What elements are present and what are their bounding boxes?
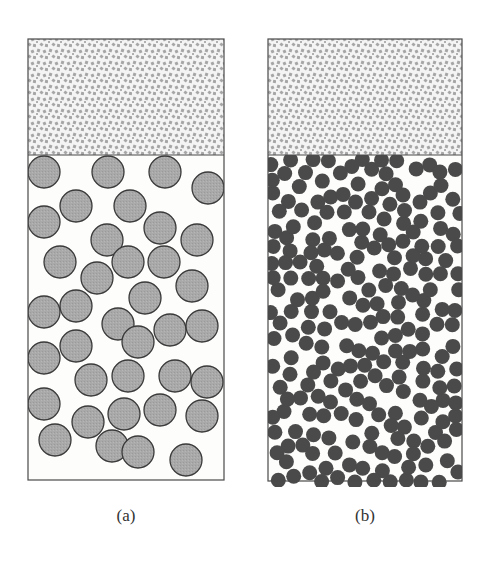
small-particle xyxy=(290,292,305,307)
small-particle xyxy=(445,339,460,354)
small-particle xyxy=(267,425,282,440)
small-particle xyxy=(405,288,420,303)
small-particle xyxy=(305,232,320,247)
small-particle xyxy=(286,219,301,234)
small-particle xyxy=(283,367,298,382)
small-particle xyxy=(267,331,282,346)
small-particle xyxy=(271,473,286,488)
small-particle xyxy=(307,215,322,230)
small-particle xyxy=(364,191,379,206)
small-particle xyxy=(402,344,417,359)
small-particle xyxy=(302,465,317,480)
large-particle xyxy=(28,206,60,238)
small-particle xyxy=(396,384,411,399)
large-particle xyxy=(60,330,92,362)
small-particle xyxy=(305,446,320,461)
small-particle xyxy=(306,365,321,380)
large-particle xyxy=(122,326,154,358)
large-particle xyxy=(186,400,218,432)
large-particle xyxy=(186,310,218,342)
small-particle xyxy=(430,317,445,332)
small-particle xyxy=(362,205,377,220)
small-particle xyxy=(452,206,467,221)
small-particle xyxy=(364,426,379,441)
small-particle xyxy=(390,310,405,325)
small-particle xyxy=(288,424,303,439)
small-particle xyxy=(445,192,460,207)
small-particle xyxy=(397,203,412,218)
small-particle xyxy=(333,166,348,181)
small-particle xyxy=(376,309,391,324)
small-particle xyxy=(374,331,389,346)
small-particle xyxy=(424,399,439,414)
small-particle xyxy=(437,434,452,449)
small-particle xyxy=(301,271,316,286)
small-particle xyxy=(440,453,455,468)
large-particle xyxy=(28,296,60,328)
small-particle xyxy=(423,282,438,297)
small-particle xyxy=(388,344,403,359)
small-particle xyxy=(316,408,331,423)
small-particle xyxy=(413,195,428,210)
small-particle xyxy=(413,475,428,490)
large-particle xyxy=(81,262,113,294)
small-particle xyxy=(432,475,447,490)
small-particle xyxy=(315,174,330,189)
small-particle xyxy=(366,473,381,488)
panel-b-caption: (b) xyxy=(335,506,395,526)
small-particle xyxy=(272,204,287,219)
small-particle xyxy=(414,411,429,426)
large-particle xyxy=(44,246,76,278)
small-particle xyxy=(351,177,366,192)
large-particle xyxy=(28,156,60,188)
small-particle xyxy=(330,274,345,289)
small-particle xyxy=(284,350,299,365)
small-particle xyxy=(368,368,383,383)
small-particle xyxy=(388,328,403,343)
small-particle xyxy=(316,284,331,299)
large-particle xyxy=(129,282,161,314)
large-particle xyxy=(170,444,202,476)
small-particle xyxy=(356,298,371,313)
small-particle xyxy=(299,336,314,351)
small-particle xyxy=(448,395,463,410)
large-particle xyxy=(112,360,144,392)
small-particle xyxy=(267,224,282,239)
small-particle xyxy=(387,250,402,265)
small-particle xyxy=(293,390,308,405)
small-particle xyxy=(280,392,295,407)
small-particle xyxy=(328,446,343,461)
large-particle xyxy=(144,394,176,426)
small-particle xyxy=(416,361,431,376)
small-particle xyxy=(334,315,349,330)
small-particle xyxy=(403,261,418,276)
panel-b-fluid-region xyxy=(268,39,462,155)
small-particle xyxy=(430,205,445,220)
small-particle xyxy=(415,342,430,357)
small-particle xyxy=(285,328,300,343)
large-particle xyxy=(149,156,181,188)
small-particle xyxy=(304,245,319,260)
large-particle xyxy=(154,314,186,346)
small-particle xyxy=(343,358,358,373)
small-particle xyxy=(345,435,360,450)
small-particle xyxy=(320,205,335,220)
panel-a xyxy=(28,39,224,480)
small-particle xyxy=(445,317,460,332)
small-particle xyxy=(342,222,357,237)
small-particle xyxy=(399,473,414,488)
small-particle xyxy=(432,165,447,180)
small-particle xyxy=(450,465,465,480)
small-particle xyxy=(265,173,280,188)
small-particle xyxy=(384,418,399,433)
small-particle xyxy=(451,282,466,297)
particle-diagram xyxy=(0,0,492,565)
small-particle xyxy=(418,267,433,282)
small-particle xyxy=(350,250,365,265)
small-particle xyxy=(273,316,288,331)
large-particle xyxy=(181,224,213,256)
small-particle xyxy=(379,166,394,181)
small-particle xyxy=(337,205,352,220)
small-particle xyxy=(361,283,376,298)
large-particle xyxy=(75,364,107,396)
